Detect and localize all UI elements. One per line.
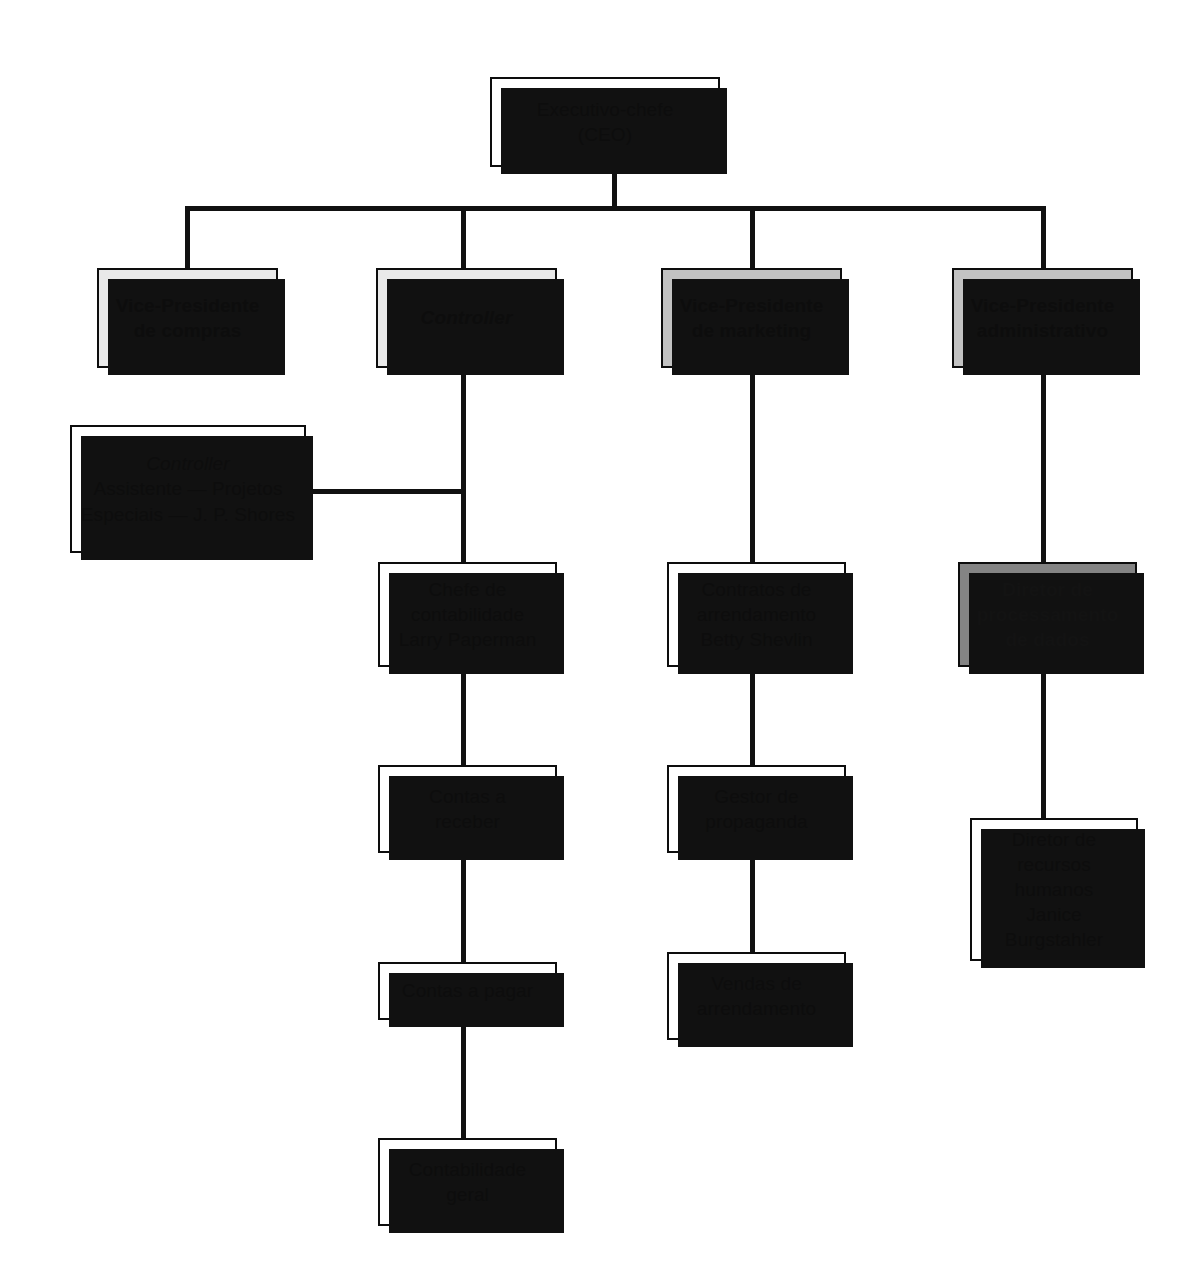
connector-bus-row2 [185,206,1046,211]
connector-drop-vp-compras [185,206,190,270]
node-controller[interactable]: Controller [376,268,557,368]
node-controller-label: Controller [415,305,519,330]
node-ceo[interactable]: Executivo-chefe(CEO) [490,77,720,167]
node-vp-marketing-label: Vice-Presidentede marketing [674,293,830,343]
node-vp-administrativo[interactable]: Vice-Presidenteadministrativo [952,268,1133,368]
node-assistente-projetos[interactable]: Controller Assistente — ProjetosEspeciai… [70,425,306,553]
node-contas-receber[interactable]: Contas areceber [378,765,557,853]
org-chart: Executivo-chefe(CEO) Vice-Presidentede c… [0,0,1181,1285]
node-diretor-processamento-label: Diretor deprocessamentode dados [971,577,1125,652]
node-diretor-rh[interactable]: Diretor derecursoshumanosJaniceBurgstahl… [970,818,1138,961]
node-vp-marketing[interactable]: Vice-Presidentede marketing [661,268,842,368]
node-vp-administrativo-label: Vice-Presidenteadministrativo [965,293,1121,343]
connector-drop-controller [461,206,466,270]
node-vendas-arrendamento[interactable]: Vendas dearrendamento [667,952,846,1040]
node-vp-compras-label: Vice-Presidentede compras [110,293,266,343]
node-contratos-arrendamento-label: Contratos dearrendamentoBetty Shevlin [691,577,823,652]
connector-drop-vp-marketing [750,206,755,270]
connector-branch-assistente [305,489,465,494]
node-contratos-arrendamento[interactable]: Contratos dearrendamentoBetty Shevlin [667,562,846,667]
node-diretor-rh-label: Diretor derecursoshumanosJaniceBurgstahl… [999,827,1109,952]
node-vp-compras[interactable]: Vice-Presidentede compras [97,268,278,368]
node-contas-pagar-label: Contas a pagar [396,978,539,1003]
node-contabilidade-geral[interactable]: Contabilidadegeral [378,1138,557,1226]
node-contabilidade-geral-label: Contabilidadegeral [403,1157,533,1207]
node-vendas-arrendamento-label: Vendas dearrendamento [691,971,823,1021]
node-ceo-label: Executivo-chefe(CEO) [531,97,680,147]
node-gestor-propaganda-label: Gestor depropaganda [699,784,813,834]
node-diretor-processamento[interactable]: Diretor deprocessamentode dados [958,562,1137,667]
node-assistente-projetos-title: Controller [146,453,229,474]
node-assistente-projetos-label: Controller Assistente — ProjetosEspeciai… [75,451,301,526]
node-chefe-contabilidade[interactable]: Chefe decontabilidadeLarry Paperman [378,562,557,667]
node-assistente-projetos-body: Assistente — ProjetosEspeciais — J. P. S… [81,478,295,524]
node-contas-receber-label: Contas areceber [423,784,512,834]
node-gestor-propaganda[interactable]: Gestor depropaganda [667,765,846,853]
connector-drop-vp-administrativo [1041,206,1046,270]
node-contas-pagar[interactable]: Contas a pagar [378,962,557,1020]
node-chefe-contabilidade-label: Chefe decontabilidadeLarry Paperman [393,577,543,652]
